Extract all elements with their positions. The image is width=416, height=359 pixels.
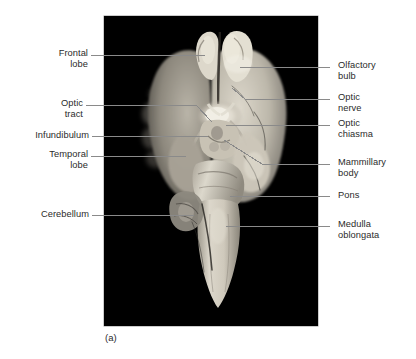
label-optic-chiasma-line-1: Optic bbox=[338, 118, 373, 129]
label-optic-tract-line-2: tract bbox=[61, 109, 83, 120]
label-frontal-lobe-line-1: Frontal bbox=[59, 48, 88, 59]
label-temporal-lobe: Temporal lobe bbox=[49, 149, 88, 170]
label-optic-tract-line-1: Optic bbox=[61, 98, 83, 109]
label-optic-chiasma-line-2: chiasma bbox=[338, 129, 373, 140]
label-mammillary-body-line-2: body bbox=[338, 168, 386, 179]
label-optic-tract: Optic tract bbox=[61, 98, 83, 119]
label-temporal-lobe-line-2: lobe bbox=[49, 160, 88, 171]
label-olfactory-bulb-line-1: Olfactory bbox=[338, 60, 376, 71]
label-medulla-oblongata: Medulla oblongata bbox=[338, 219, 379, 240]
label-infundibulum: Infundibulum bbox=[35, 130, 89, 141]
label-frontal-lobe: Frontal lobe bbox=[59, 48, 88, 69]
label-optic-nerve-line-2: nerve bbox=[338, 103, 362, 114]
label-infundibulum-line-1: Infundibulum bbox=[35, 130, 89, 141]
label-pons-line-1: Pons bbox=[338, 190, 359, 201]
anatomy-figure: Frontal lobe Optic tract Infundibulum Te… bbox=[0, 0, 416, 359]
label-pons: Pons bbox=[338, 190, 359, 201]
specimen-photo-panel bbox=[104, 16, 318, 326]
label-medulla-oblongata-line-1: Medulla bbox=[338, 219, 379, 230]
label-olfactory-bulb: Olfactory bulb bbox=[338, 60, 376, 81]
label-temporal-lobe-line-1: Temporal bbox=[49, 149, 88, 160]
label-cerebellum: Cerebellum bbox=[41, 209, 89, 220]
label-medulla-oblongata-line-2: oblongata bbox=[338, 230, 379, 241]
label-frontal-lobe-line-2: lobe bbox=[59, 59, 88, 70]
label-mammillary-body-line-1: Mammillary bbox=[338, 157, 386, 168]
figure-caption: (a) bbox=[105, 332, 117, 343]
label-optic-nerve-line-1: Optic bbox=[338, 92, 362, 103]
label-mammillary-body: Mammillary body bbox=[338, 157, 386, 178]
brain-specimen-image bbox=[104, 16, 318, 326]
label-optic-chiasma: Optic chiasma bbox=[338, 118, 373, 139]
label-optic-nerve: Optic nerve bbox=[338, 92, 362, 113]
label-olfactory-bulb-line-2: bulb bbox=[338, 71, 376, 82]
label-cerebellum-line-1: Cerebellum bbox=[41, 209, 89, 220]
